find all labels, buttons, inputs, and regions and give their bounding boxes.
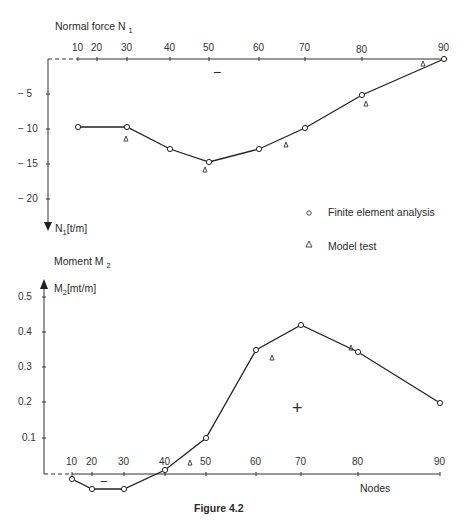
legend-triangle-icon [306, 241, 312, 247]
top-axis-arrow-icon [44, 222, 52, 231]
bottom-chart-title: Moment M 2 [54, 255, 111, 270]
legend-circle-icon [307, 211, 311, 215]
figure-caption: Figure 4.2 [194, 502, 244, 514]
top-axis-label: N1[t/m] [55, 222, 87, 237]
x-axis-label-nodes: Nodes [360, 482, 390, 494]
top-negative-sign: − [213, 64, 221, 80]
bottom-positive-sign: + [292, 398, 303, 419]
legend-label-model-test: Model test [328, 240, 376, 252]
top-model-test-markers [124, 61, 425, 172]
bottom-model-test-markers [188, 345, 353, 465]
bottom-chart-axes [42, 285, 440, 476]
bottom-negative-sign: − [100, 474, 108, 489]
bottom-axis-label: M2[mt/m] [54, 282, 96, 297]
top-chart-axes [46, 57, 444, 224]
bottom-axis-arrow-icon [40, 279, 48, 289]
top-fea-markers [75, 56, 446, 164]
legend-label-fea: Finite element analysis [328, 206, 435, 218]
top-fea-line [78, 59, 444, 162]
